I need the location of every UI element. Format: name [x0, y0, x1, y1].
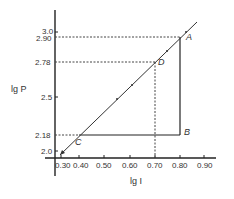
- x-tick-0-40: 0.40: [73, 161, 89, 170]
- y-tick-2-0: 2.0: [41, 147, 53, 156]
- x-tick-0-30: 0.30: [55, 161, 71, 170]
- y-axis-title: lg P: [11, 84, 27, 94]
- x-tick-0-80: 0.80: [172, 161, 188, 170]
- x-tick-0-90: 0.90: [197, 161, 213, 170]
- point-d-label: D: [158, 57, 165, 67]
- y-tick-2-78: 2.78: [35, 58, 51, 67]
- chart: 3.0 2.90 2.78 2.5 2.18 2.0 0.30 0.40 0.5…: [0, 0, 234, 199]
- y-tick-2-90: 2.90: [36, 34, 52, 43]
- point-b-label: B: [184, 127, 190, 137]
- x-axis-title: lg I: [130, 176, 142, 186]
- x-tick-0-70: 0.70: [147, 161, 163, 170]
- point-a-label: A: [185, 32, 192, 42]
- point-c-label: C: [75, 137, 82, 147]
- y-tick-2-18: 2.18: [35, 131, 51, 140]
- triangle-lines: [79, 37, 180, 135]
- x-tick-0-50: 0.50: [96, 161, 112, 170]
- x-tick-0-60: 0.60: [122, 161, 138, 170]
- y-tick-2-5: 2.5: [41, 93, 53, 102]
- guide-lines-dashed: [55, 37, 180, 158]
